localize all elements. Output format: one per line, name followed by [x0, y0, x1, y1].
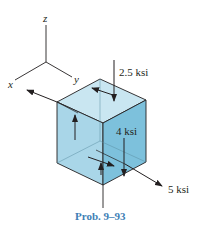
- axis-label-z: z: [42, 12, 48, 24]
- arrow-5ksi: [125, 164, 162, 186]
- label-2-5ksi: 2.5 ksi: [119, 66, 148, 78]
- axis-label-x: x: [7, 78, 13, 90]
- label-4ksi: 4 ksi: [116, 125, 137, 137]
- label-5ksi: 5 ksi: [168, 183, 189, 195]
- coordinate-axes: [15, 25, 72, 80]
- arrow-x-left: [27, 90, 57, 102]
- axis-label-y: y: [73, 73, 79, 85]
- stress-element-diagram: z x y 2.5 ksi 4 ksi 5 ksi Prob. 9–93: [0, 0, 203, 231]
- figure-caption: Prob. 9–93: [75, 210, 126, 222]
